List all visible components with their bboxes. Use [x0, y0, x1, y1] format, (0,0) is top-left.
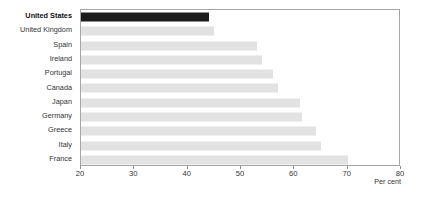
bar-row — [81, 10, 401, 24]
x-tick-label-60: 60 — [289, 170, 297, 178]
bar-japan — [81, 98, 300, 107]
category-label-portugal: Portugal — [0, 69, 76, 76]
bar-greece — [81, 127, 316, 136]
x-tick-label-30: 30 — [129, 170, 137, 178]
bar-row — [81, 39, 401, 53]
bar-row — [81, 67, 401, 81]
bar-row — [81, 24, 401, 38]
category-label-united-kingdom: United Kingdom — [0, 26, 76, 33]
category-label-greece: Greece — [0, 126, 76, 133]
category-label-canada: Canada — [0, 84, 76, 91]
category-label-japan: Japan — [0, 98, 76, 105]
bar-germany — [81, 113, 302, 122]
bar-canada — [81, 84, 278, 93]
category-axis-labels: United StatesUnited KingdomSpainIrelandP… — [0, 9, 76, 166]
x-axis-unit-label: Per cent — [0, 178, 401, 185]
bar-row — [81, 53, 401, 67]
category-label-ireland: Ireland — [0, 55, 76, 62]
bar-row — [81, 138, 401, 152]
bar-united-kingdom — [81, 27, 214, 36]
x-tick-label-70: 70 — [342, 170, 350, 178]
bar-row — [81, 96, 401, 110]
x-tick-label-40: 40 — [182, 170, 190, 178]
category-label-germany: Germany — [0, 112, 76, 119]
category-label-united-states: United States — [0, 12, 76, 19]
bar-italy — [81, 141, 321, 150]
bar-row — [81, 81, 401, 95]
bar-france — [81, 155, 348, 164]
x-tick-label-20: 20 — [76, 170, 84, 178]
category-label-france: France — [0, 155, 76, 162]
bar-row — [81, 124, 401, 138]
bar-row — [81, 110, 401, 124]
bar-ireland — [81, 55, 262, 64]
bar-united-states — [81, 13, 209, 22]
bar-spain — [81, 41, 257, 50]
plot-area — [80, 9, 400, 166]
bar-row — [81, 153, 401, 167]
bar-chart: United StatesUnited KingdomSpainIrelandP… — [0, 0, 422, 198]
x-tick-label-50: 50 — [236, 170, 244, 178]
category-label-italy: Italy — [0, 141, 76, 148]
bar-portugal — [81, 70, 273, 79]
category-label-spain: Spain — [0, 41, 76, 48]
